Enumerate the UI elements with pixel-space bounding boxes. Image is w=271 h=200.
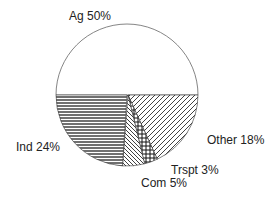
label-ag: Ag 50%	[69, 10, 111, 22]
label-ind: Ind 24%	[16, 141, 60, 153]
pie-chart	[0, 0, 271, 200]
slice-ag	[56, 24, 198, 95]
label-com: Com 5%	[141, 177, 187, 189]
label-other: Other 18%	[207, 134, 264, 146]
slice-ind	[56, 95, 127, 166]
label-trspt: Trspt 3%	[171, 164, 219, 176]
